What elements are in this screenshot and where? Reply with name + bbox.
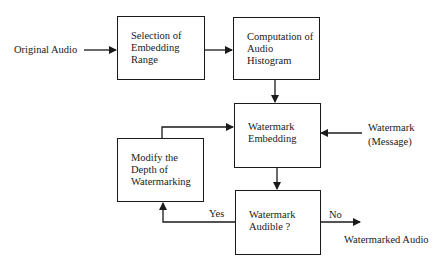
node-modify-depth-of-watermarking: Modify the Depth of Watermarking [117, 138, 204, 202]
edge-label-yes: Yes [209, 208, 224, 220]
node-computation-of-audio-histogram: Computation of Audio Histogram [233, 17, 320, 80]
input-watermark-line: Watermark [368, 122, 414, 134]
node-text-line: Audio [247, 43, 313, 55]
edge-label-no: No [329, 209, 342, 221]
node-text-line: Modify the [131, 152, 191, 164]
node-text-line: Watermark [249, 209, 295, 221]
input-original-audio-label: Original Audio [14, 44, 77, 56]
node-text-line: Embedding [248, 133, 296, 145]
node-text-line: Histogram [247, 55, 313, 67]
input-message-line: (Message) [368, 136, 414, 148]
node-text-line: Watermark [248, 121, 296, 133]
node-watermark-embedding: Watermark Embedding [234, 103, 321, 168]
node-watermark-audible-decision: Watermark Audible ? [235, 190, 321, 255]
input-watermark-message-label: Watermark (Message) [368, 122, 414, 148]
output-watermarked-audio-label: Watermarked Audio [344, 234, 429, 246]
node-text-line: Depth of [131, 164, 191, 176]
node-text-line: Computation of [247, 31, 313, 43]
node-text-line: Audible ? [249, 221, 295, 233]
node-text-line: Embedding [131, 42, 181, 54]
arrow-modify-to-embedding [162, 127, 233, 138]
node-text-line: Watermarking [131, 176, 191, 188]
node-selection-of-embedding-range: Selection of Embedding Range [117, 16, 205, 80]
node-text-line: Selection of [131, 30, 181, 42]
node-text-line: Range [131, 54, 181, 66]
